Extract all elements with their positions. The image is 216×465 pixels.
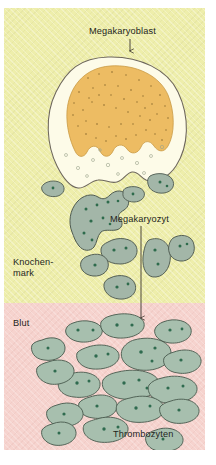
thrombopoiesis-figure: Megakaryoblast Megakaryozyt Knochen-mark… bbox=[0, 0, 216, 465]
label-knochenmark-line1: Knochen- bbox=[13, 257, 54, 267]
label-knochenmark: Knochen-mark bbox=[13, 257, 73, 278]
label-megakaryoblast: Megakaryoblast bbox=[89, 26, 156, 37]
label-thrombozyten: Thrombozyten bbox=[113, 429, 174, 440]
label-blut: Blut bbox=[13, 318, 29, 329]
label-knochenmark-line2: mark bbox=[13, 268, 34, 278]
blood-region bbox=[4, 303, 205, 450]
label-megakaryozyt: Megakaryozyt bbox=[110, 214, 169, 225]
